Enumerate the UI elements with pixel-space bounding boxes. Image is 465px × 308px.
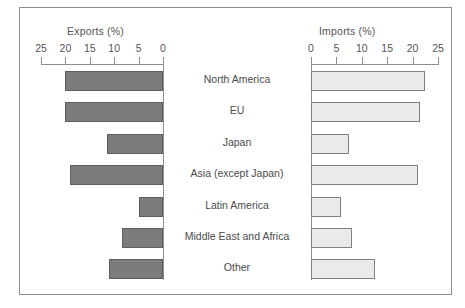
export-bar [65, 102, 163, 122]
export-bar [70, 165, 163, 185]
imports-tick-label: 10 [356, 42, 368, 54]
export-bar [139, 197, 163, 217]
category-label: Japan [163, 136, 311, 148]
imports-tick-mark [413, 57, 414, 65]
import-bar [311, 259, 375, 279]
exports-tick-mark [65, 57, 66, 65]
import-bar [311, 165, 418, 185]
imports-axis-rule [311, 57, 438, 65]
import-bar [311, 102, 420, 122]
category-label: Latin America [163, 199, 311, 211]
import-bar [311, 134, 349, 154]
plot-area: North AmericaEUJapanAsia (except Japan)L… [20, 65, 451, 285]
chart-row: Other [20, 253, 451, 284]
import-bar [311, 197, 341, 217]
category-label: Other [163, 261, 311, 273]
chart-row: EU [20, 96, 451, 127]
chart-frame: Exports (%) Imports (%) 2520151050 05101… [19, 7, 452, 295]
category-label: North America [163, 73, 311, 85]
imports-tick-label: 15 [381, 42, 393, 54]
imports-axis-title: Imports (%) [319, 25, 375, 37]
export-bar [109, 259, 163, 279]
category-label: Asia (except Japan) [163, 167, 311, 179]
category-label: Middle East and Africa [163, 230, 311, 242]
imports-tick-mark [362, 57, 363, 65]
category-label: EU [163, 104, 311, 116]
imports-tick-labels: 0510152025 [20, 42, 451, 55]
exports-tick-mark [114, 57, 115, 65]
imports-tick-mark [387, 57, 388, 65]
imports-tick-label: 5 [333, 42, 339, 54]
chart-row: Latin America [20, 191, 451, 222]
exports-tick-mark [90, 57, 91, 65]
export-bar [107, 134, 163, 154]
exports-tick-mark [139, 57, 140, 65]
imports-tick-mark [336, 57, 337, 65]
imports-tick-label: 20 [407, 42, 419, 54]
import-bar [311, 71, 425, 91]
export-bar [65, 71, 163, 91]
imports-tick-label: 25 [432, 42, 444, 54]
chart-row: Asia (except Japan) [20, 159, 451, 190]
chart-row: North America [20, 65, 451, 96]
exports-tick-mark [41, 57, 42, 65]
exports-axis-rule [41, 57, 163, 65]
import-bar [311, 228, 352, 248]
chart-row: Japan [20, 128, 451, 159]
export-bar [122, 228, 163, 248]
imports-tick-label: 0 [308, 42, 314, 54]
chart-row: Middle East and Africa [20, 222, 451, 253]
imports-tick-mark [438, 57, 439, 65]
exports-axis-title: Exports (%) [67, 25, 124, 37]
